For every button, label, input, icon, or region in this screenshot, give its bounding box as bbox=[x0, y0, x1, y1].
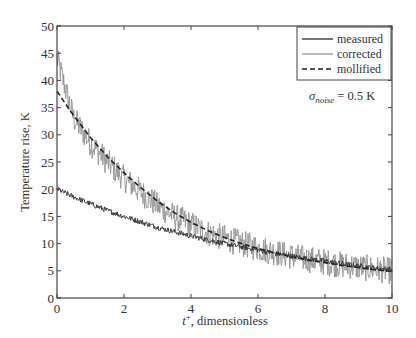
x-tick-label: 0 bbox=[54, 301, 61, 316]
noise-annotation-value: = 0.5 K bbox=[334, 89, 375, 103]
y-tick-label: 5 bbox=[48, 263, 55, 278]
y-tick-label: 40 bbox=[41, 73, 54, 88]
y-tick-label: 15 bbox=[41, 209, 54, 224]
y-tick-label: 25 bbox=[41, 155, 54, 170]
legend: measured corrected mollified bbox=[297, 27, 391, 80]
legend-label-mollified: mollified bbox=[337, 62, 381, 76]
y-tick-label: 0 bbox=[48, 291, 55, 306]
plot-lines bbox=[57, 51, 392, 284]
x-tick-label: 10 bbox=[386, 301, 399, 316]
y-tick-label: 10 bbox=[41, 236, 54, 251]
x-axis-label-rest: , dimensionless bbox=[191, 314, 268, 328]
temperature-rise-chart: 024681005101520253035404550 t+, dimensio… bbox=[0, 0, 416, 338]
y-axis-label: Temperature rise, K bbox=[18, 112, 32, 211]
legend-label-corrected: corrected bbox=[337, 47, 382, 61]
noise-annotation: σnoise = 0.5 K bbox=[309, 89, 375, 105]
series-line-corrected bbox=[57, 51, 392, 284]
y-tick-label: 30 bbox=[41, 127, 54, 142]
x-axis-label: t+, dimensionless bbox=[182, 312, 268, 328]
y-tick-label: 35 bbox=[41, 100, 54, 115]
series-line-mollified bbox=[57, 91, 392, 271]
legend-label-measured: measured bbox=[337, 32, 383, 46]
x-tick-label: 2 bbox=[121, 301, 128, 316]
y-tick-label: 45 bbox=[41, 46, 54, 61]
noise-annotation-subscript: noise bbox=[315, 95, 334, 105]
y-tick-label: 50 bbox=[41, 19, 54, 34]
x-tick-label: 8 bbox=[322, 301, 329, 316]
y-tick-label: 20 bbox=[41, 182, 54, 197]
